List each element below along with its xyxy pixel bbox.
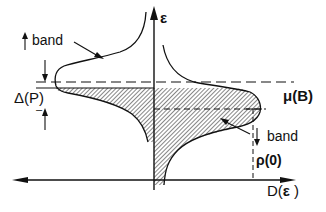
d-axis-label: D(ε ) [267, 183, 299, 198]
upper-band-up-arrow-icon [22, 32, 28, 39]
d-axis-label-close: ) [290, 182, 299, 199]
epsilon-axis-label: ε [160, 10, 167, 25]
lower-band-down-arrow-icon [254, 139, 260, 146]
d-axis-label-d: D( [267, 182, 283, 199]
epsilon-axis-arrow-icon [150, 6, 158, 20]
occupied-region-right [154, 88, 260, 185]
rho-zero-label: ρ(0) [256, 153, 282, 167]
occupied-region-left [56, 88, 154, 142]
d-axis-label-eps: ε [283, 182, 290, 199]
gap-arrow-top-head-icon [42, 74, 48, 82]
upper-band-pointer [74, 42, 98, 56]
lower-band-label: band [267, 129, 298, 143]
upper-band-curve-left [55, 12, 148, 142]
gap-arrow-bottom-head-icon [42, 108, 48, 116]
d-axis-left-arrow-icon [12, 177, 28, 183]
gap-minus: – [36, 104, 42, 115]
upper-band-label: band [32, 33, 63, 47]
chemical-potential-label: μ(B) [283, 88, 313, 103]
